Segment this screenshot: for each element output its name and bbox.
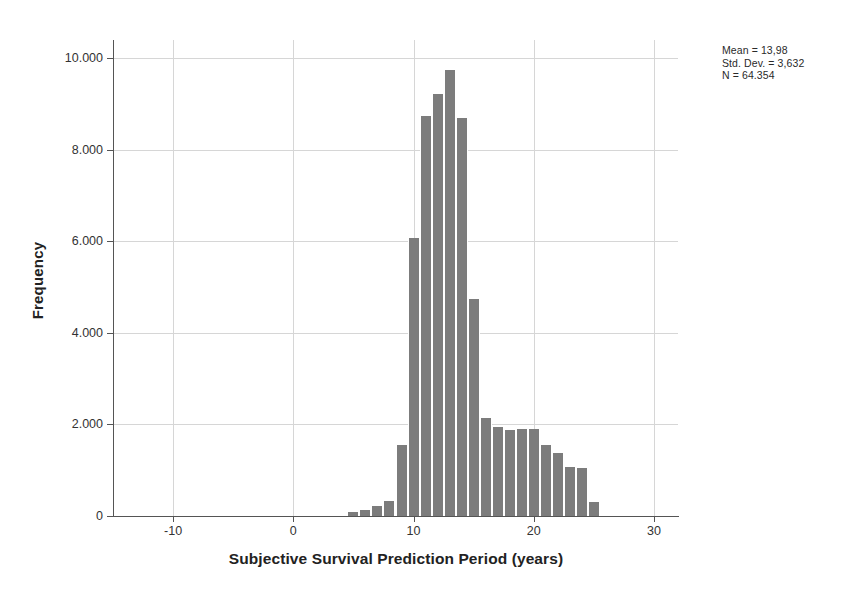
histogram-bar <box>420 116 432 516</box>
y-axis-tick-label: 8.000 <box>47 143 103 157</box>
histogram-bar <box>371 506 383 516</box>
y-axis-tick <box>107 516 113 517</box>
histogram-bar <box>504 430 516 516</box>
histogram-bar <box>576 468 588 517</box>
y-axis-tick-label: 6.000 <box>47 234 103 248</box>
histogram-figure: Frequency 02.0004.0006.0008.00010.000 Su… <box>0 0 848 598</box>
histogram-bar <box>396 445 408 516</box>
y-axis-line <box>113 40 114 517</box>
stat-std-dev: Std. Dev. = 3,632 <box>722 57 804 70</box>
histogram-bar <box>432 94 444 516</box>
histogram-bar <box>540 445 552 516</box>
histogram-bar <box>444 70 456 516</box>
x-axis-title: Subjective Survival Prediction Period (y… <box>113 550 679 568</box>
histogram-bar <box>468 299 480 516</box>
x-axis-tick <box>173 516 174 522</box>
stat-n: N = 64.354 <box>722 69 804 82</box>
x-axis-tick-label: -10 <box>143 524 203 538</box>
histogram-bar <box>408 238 420 516</box>
y-axis-tick <box>107 333 113 334</box>
x-axis-tick-label: 10 <box>384 524 444 538</box>
histogram-bar <box>456 118 468 516</box>
histogram-bar <box>552 453 564 516</box>
x-axis-tick <box>414 516 415 522</box>
y-axis-tick <box>107 424 113 425</box>
histogram-bar <box>516 429 528 516</box>
y-axis-tick-label: 10.000 <box>47 51 103 65</box>
x-axis-tick <box>293 516 294 522</box>
y-axis-tick-label: 4.000 <box>47 326 103 340</box>
x-axis-tick-label: 30 <box>624 524 684 538</box>
y-axis-title-label: Frequency <box>30 241 47 319</box>
histogram-bar <box>588 502 600 516</box>
x-axis-tick-label: 0 <box>263 524 323 538</box>
histogram-bar <box>480 418 492 516</box>
stat-mean: Mean = 13,98 <box>722 44 804 57</box>
y-axis-tick <box>107 150 113 151</box>
x-axis-line <box>113 516 679 517</box>
y-axis-tick-label: 0 <box>47 509 103 523</box>
histogram-bar <box>492 427 504 516</box>
histogram-bar <box>383 501 395 516</box>
x-axis-tick <box>654 516 655 522</box>
y-axis-tick-label: 2.000 <box>47 417 103 431</box>
y-axis-tick-labels: 02.0004.0006.0008.00010.000 <box>45 0 103 598</box>
y-axis-tick <box>107 58 113 59</box>
x-axis-tick <box>534 516 535 522</box>
histogram-bar <box>564 467 576 516</box>
histogram-bars <box>113 40 678 516</box>
statistics-annotation: Mean = 13,98 Std. Dev. = 3,632 N = 64.35… <box>722 44 804 82</box>
x-axis-tick-label: 20 <box>504 524 564 538</box>
histogram-bar <box>528 429 540 516</box>
y-axis-tick <box>107 241 113 242</box>
